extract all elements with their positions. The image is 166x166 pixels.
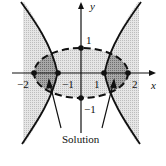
y-axis-label: y [89, 0, 95, 12]
x-tick-1: 1 [94, 78, 100, 90]
x-axis-label: x [150, 79, 156, 91]
solution-annotation: Solution [62, 133, 100, 145]
y-tick-1: 1 [86, 34, 92, 46]
x-tick-2: 2 [132, 78, 138, 90]
x-tick-neg2: −2 [17, 78, 29, 90]
x-axis-arrow-icon [149, 70, 156, 76]
x-tick-neg1: −1 [62, 78, 74, 90]
y-axis-arrow-icon [78, 2, 84, 9]
y-tick-neg1: −1 [84, 103, 96, 115]
inequality-graph: x y −2 −1 1 2 1 −1 Solution [0, 0, 166, 166]
